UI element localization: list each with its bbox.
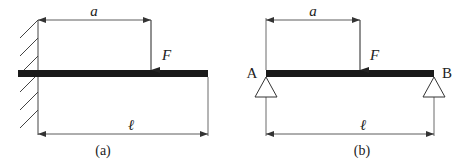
dimension-length: ℓ [266, 117, 434, 134]
beam-diagram: a F ℓ (a) A B a [0, 0, 467, 167]
force-arrow: F [151, 20, 172, 70]
label-a: a [90, 3, 98, 19]
label-force: F [369, 47, 380, 63]
label-a: a [309, 3, 317, 19]
label-support-a: A [247, 65, 258, 81]
pin-support-a-icon [255, 77, 277, 97]
beam [18, 70, 208, 77]
caption-b: (b) [354, 143, 371, 159]
label-support-b: B [442, 65, 452, 81]
fixed-wall-icon [20, 20, 38, 135]
beam [266, 70, 434, 77]
dimension-length: ℓ [38, 77, 208, 136]
label-length: ℓ [360, 117, 366, 133]
panel-a: a F ℓ (a) [18, 3, 208, 159]
panel-b: A B a F ℓ (b) [247, 3, 452, 159]
caption-a: (a) [95, 143, 111, 159]
force-arrow: F [360, 20, 380, 70]
dimension-a: a [266, 3, 360, 20]
label-force: F [161, 47, 172, 63]
label-length: ℓ [128, 117, 134, 133]
dimension-a: a [38, 3, 151, 20]
